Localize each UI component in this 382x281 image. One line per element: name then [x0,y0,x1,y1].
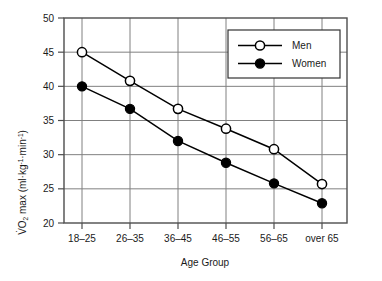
ytick-label-20: 20 [43,218,55,229]
ytick-label-50: 50 [43,13,55,24]
x-axis-ticks [82,223,322,229]
vo2max-line-chart: 50 45 40 35 30 25 20 18–25 26–35 36–45 4… [0,0,382,281]
data-point-men-18-25 [77,48,86,57]
data-point-women-over-65 [317,199,326,208]
ytick-label-40: 40 [43,81,55,92]
legend-label-women: Women [292,58,326,69]
data-point-men-26-35 [125,76,134,85]
xtick-label-over-65: over 65 [305,233,339,244]
legend-marker-women-filled-circle-icon [255,59,264,68]
xtick-label-36-45: 36–45 [164,233,192,244]
legend-box [228,30,340,78]
data-point-women-26-35 [125,104,134,113]
xtick-label-46-55: 46–55 [212,233,240,244]
ytick-label-25: 25 [43,183,55,194]
data-point-women-46-55 [221,158,230,167]
data-point-women-18-25 [77,82,86,91]
y-axis-title: V̇O2 max (ml·kg-1·min-1) [16,130,29,235]
xtick-label-56-65: 56–65 [260,233,288,244]
chart-canvas: 50 45 40 35 30 25 20 18–25 26–35 36–45 4… [0,0,382,281]
y-axis-title-close: ) [17,130,28,133]
xtick-label-26-35: 26–35 [116,233,144,244]
legend-label-men: Men [292,40,311,51]
data-point-men-56-65 [269,145,278,154]
chart-legend: Men Women [228,30,340,78]
y-axis-ticks [58,18,64,223]
data-point-men-over-65 [317,179,326,188]
y-axis-title-mid: ·min [17,139,28,158]
ytick-label-45: 45 [43,47,55,58]
legend-marker-men-open-circle-icon [255,41,264,50]
svg-text:V̇O2 max (ml·kg-1·min-1): V̇O2 max (ml·kg-1·min-1) [16,130,29,235]
data-point-women-36-45 [173,136,182,145]
y-axis-title-rest: max (ml·kg [17,165,28,217]
data-point-men-46-55 [221,124,230,133]
y-tick-labels: 50 45 40 35 30 25 20 [43,13,55,229]
ytick-label-35: 35 [43,115,55,126]
xtick-label-18-25: 18–25 [68,233,96,244]
y-axis-title-vdot: V̇O [16,220,28,235]
ytick-label-30: 30 [43,149,55,160]
data-point-women-56-65 [269,179,278,188]
x-axis-title: Age Group [181,257,230,268]
x-tick-labels: 18–25 26–35 36–45 46–55 56–65 over 65 [68,233,339,244]
data-point-men-36-45 [173,104,182,113]
